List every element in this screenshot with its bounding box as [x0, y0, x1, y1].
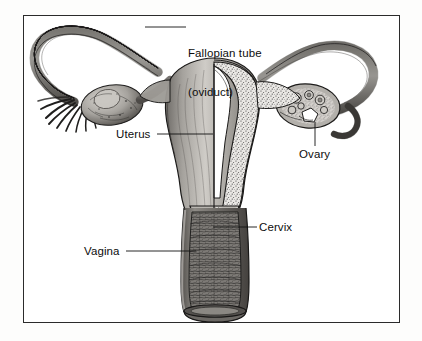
label-uterus: Uterus [116, 128, 150, 141]
label-ovary: Ovary [299, 148, 330, 161]
left-ovary [79, 81, 146, 129]
figure-page: Fallopian tube (oviduct) Uterus Ovary Ce… [0, 0, 422, 341]
label-fallopian-tube: Fallopian tube (oviduct) [188, 21, 262, 125]
vagina [181, 208, 249, 322]
left-broad-ligament [140, 80, 170, 103]
label-cervix: Cervix [259, 221, 292, 234]
label-vagina: Vagina [84, 245, 120, 258]
label-fallopian-tube-line2: (oviduct) [188, 86, 262, 99]
label-fallopian-tube-line1: Fallopian tube [188, 47, 262, 60]
